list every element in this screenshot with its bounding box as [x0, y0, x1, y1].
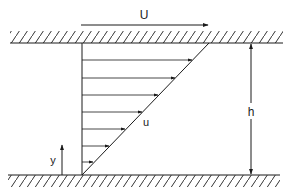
bottom-plate: [8, 175, 280, 187]
top-plate: [10, 31, 283, 43]
velocity-profile-label: u: [143, 116, 149, 128]
plate-velocity-arrow: U: [81, 8, 208, 25]
velocity-profile: u: [82, 43, 209, 175]
y-axis-arrow: y: [50, 145, 62, 175]
gap-height-label: h: [248, 105, 255, 119]
couette-flow-diagram: U u h y: [0, 0, 292, 194]
plate-velocity-label: U: [140, 8, 149, 22]
y-axis-label: y: [50, 154, 56, 166]
gap-height-dimension: h: [244, 44, 258, 174]
